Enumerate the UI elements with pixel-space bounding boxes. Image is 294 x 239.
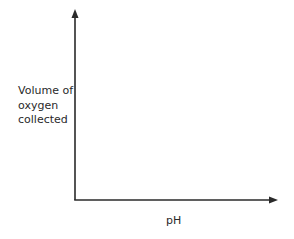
x-axis-label: pH (166, 214, 181, 227)
y-axis-label-line-1: Volume of (18, 84, 73, 99)
y-axis-label-line-2: oxygen (18, 99, 73, 114)
y-axis-label: Volume of oxygen collected (18, 84, 73, 128)
y-axis-label-line-3: collected (18, 113, 73, 128)
x-axis-arrow-icon (269, 197, 278, 204)
y-axis-arrow-icon (72, 9, 79, 18)
